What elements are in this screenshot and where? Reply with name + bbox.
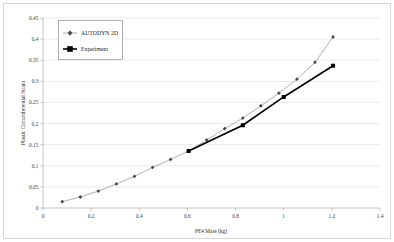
y-tick-label: 0 (36, 205, 39, 211)
y-tick-label: 0.1 (32, 163, 39, 169)
data-point-marker (331, 64, 335, 68)
x-tick-label: 1.2 (328, 213, 335, 219)
y-tick-label: 0.35 (29, 57, 39, 63)
y-tick-label: 0.3 (32, 78, 39, 84)
x-tick-label: 1.4 (377, 213, 384, 219)
x-axis-title: PE4 Mass (kg) (195, 228, 227, 235)
y-tick-label: 0.15 (29, 142, 39, 148)
y-tick-label: 0.25 (29, 99, 39, 105)
chart-container: 00.20.40.60.811.21.4 00.050.10.150.20.25… (0, 0, 394, 242)
x-tick-label: 0.4 (136, 213, 143, 219)
data-point-marker (241, 123, 245, 127)
legend-marker-experiment-icon (67, 46, 73, 52)
legend: AUTODYN 2D Experiment (59, 21, 123, 60)
y-tick-label: 0.4 (32, 36, 39, 42)
y-tick-label: 0.05 (29, 184, 39, 190)
x-tick-label: 1 (282, 213, 285, 219)
legend-label-autodyn: AUTODYN 2D (81, 30, 118, 36)
data-point-marker (187, 149, 191, 153)
data-point-marker (282, 95, 286, 99)
y-axis-title: Plastic Circumferential Strain (20, 81, 26, 145)
x-tick-label: 0.8 (232, 213, 239, 219)
y-tick-label: 0.45 (29, 15, 39, 21)
x-tick-label: 0.2 (88, 213, 95, 219)
y-tick-label: 0.2 (32, 121, 39, 127)
chart-canvas: 00.20.40.60.811.21.4 00.050.10.150.20.25… (0, 0, 394, 242)
x-tick-label: 0 (42, 213, 45, 219)
x-tick-label: 0.6 (184, 213, 191, 219)
legend-label-experiment: Experiment (81, 46, 108, 52)
legend-box (59, 21, 123, 60)
